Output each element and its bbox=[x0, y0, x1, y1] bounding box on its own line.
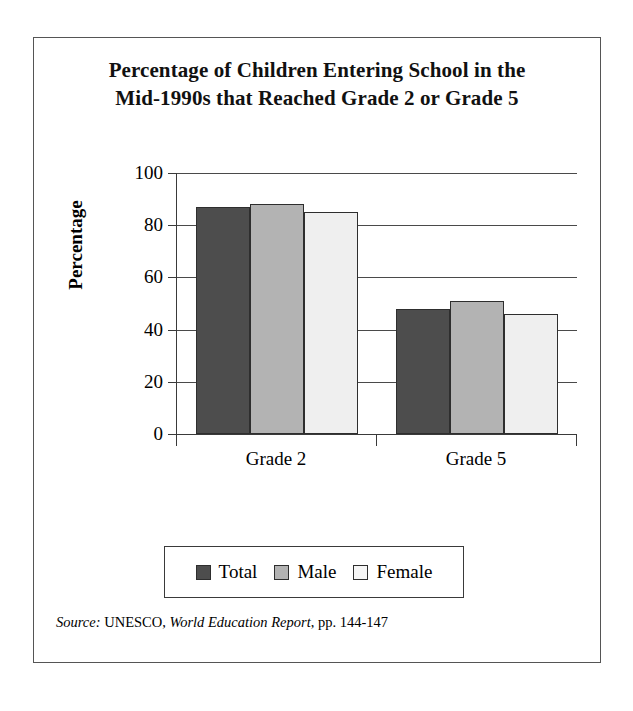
y-tick-label-60: 60 bbox=[103, 266, 163, 288]
y-tick-60 bbox=[168, 277, 177, 278]
y-tick-label-0: 0 bbox=[103, 423, 163, 445]
y-tick-80 bbox=[168, 225, 177, 226]
category-axis: Grade 2Grade 5 bbox=[176, 434, 576, 478]
legend-label-male: Male bbox=[297, 561, 336, 583]
x-axis-label-grade-5: Grade 5 bbox=[446, 448, 507, 470]
source-publisher: UNESCO, bbox=[104, 614, 166, 630]
legend-swatch-female-icon bbox=[353, 565, 368, 580]
bar-grade-2-total bbox=[196, 207, 250, 434]
bar-grade-5-female bbox=[504, 314, 558, 434]
source-publication: World Education Report bbox=[169, 614, 310, 630]
bar-grade-5-total bbox=[396, 309, 450, 434]
category-separator-2 bbox=[576, 434, 577, 446]
legend-entry-male: Male bbox=[274, 561, 336, 583]
y-tick-label-40: 40 bbox=[103, 319, 163, 341]
figure-frame: Percentage of Children Entering School i… bbox=[33, 37, 601, 663]
bar-grade-2-female bbox=[304, 212, 358, 434]
y-tick-100 bbox=[168, 173, 177, 174]
legend-label-female: Female bbox=[376, 561, 432, 583]
category-separator-0 bbox=[176, 434, 177, 446]
source-pages: , pp. 144-147 bbox=[311, 614, 388, 630]
y-tick-20 bbox=[168, 382, 177, 383]
source-note: Source: UNESCO, World Education Report, … bbox=[56, 614, 388, 631]
x-axis-label-grade-2: Grade 2 bbox=[246, 448, 307, 470]
y-tick-label-80: 80 bbox=[103, 214, 163, 236]
chart-legend: TotalMaleFemale bbox=[164, 546, 464, 598]
y-tick-label-20: 20 bbox=[103, 371, 163, 393]
legend-swatch-male-icon bbox=[274, 565, 289, 580]
y-tick-40 bbox=[168, 330, 177, 331]
legend-label-total: Total bbox=[219, 561, 258, 583]
legend-swatch-total-icon bbox=[196, 565, 211, 580]
legend-entry-female: Female bbox=[353, 561, 432, 583]
y-axis-title: Percentage bbox=[65, 165, 87, 325]
bar-grade-2-male bbox=[250, 204, 304, 434]
source-label: Source: bbox=[56, 614, 101, 630]
legend-entry-total: Total bbox=[196, 561, 258, 583]
bar-grade-5-male bbox=[450, 301, 504, 434]
gridline-100 bbox=[177, 173, 577, 174]
category-separator-1 bbox=[376, 434, 377, 446]
plot-area: 020406080100 bbox=[176, 173, 576, 434]
y-tick-label-100: 100 bbox=[103, 162, 163, 184]
